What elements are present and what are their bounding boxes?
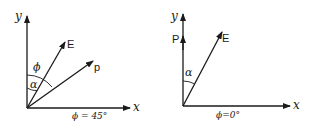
left-phi-label: ϕ xyxy=(33,62,41,73)
left-e-vector xyxy=(27,42,65,108)
right-p-label: P xyxy=(172,34,179,45)
left-p-label: p xyxy=(94,62,100,73)
diagram-canvas xyxy=(0,0,313,132)
right-caption: ϕ=0° xyxy=(216,111,240,120)
right-e-label: E xyxy=(222,33,229,44)
right-diagram xyxy=(183,14,290,106)
left-y-axis-label: y xyxy=(15,10,22,22)
left-diagram xyxy=(27,16,130,108)
left-e-label: E xyxy=(67,39,74,50)
right-y-axis-label: y xyxy=(171,10,178,22)
left-caption: ϕ = 45° xyxy=(72,112,107,121)
right-x-axis-label: x xyxy=(293,99,300,111)
right-alpha-arc xyxy=(183,81,195,84)
left-x-axis-label: x xyxy=(133,101,140,113)
left-alpha-label: α xyxy=(30,79,37,90)
right-alpha-label: α xyxy=(185,67,192,78)
